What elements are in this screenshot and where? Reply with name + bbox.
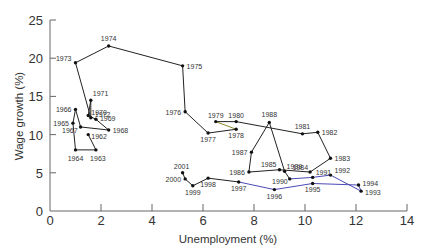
data-point — [79, 125, 82, 128]
year-label: 1987 — [232, 149, 248, 156]
year-label: 1998 — [200, 181, 216, 188]
data-point — [94, 148, 97, 151]
year-label: 2001 — [174, 163, 190, 170]
year-label: 1999 — [185, 189, 201, 196]
series-segment — [313, 183, 359, 185]
data-point — [250, 150, 253, 153]
year-label: 1979 — [208, 112, 224, 119]
data-point — [273, 188, 276, 191]
data-point — [237, 180, 240, 183]
year-label: 1973 — [56, 55, 72, 62]
data-point — [234, 120, 237, 123]
series-segment — [185, 112, 208, 133]
year-label: 1986 — [229, 169, 245, 176]
year-label: 1968 — [113, 127, 129, 134]
y-axis-title: Wage growth (%) — [13, 72, 25, 161]
year-label: 1985 — [261, 161, 277, 168]
data-point — [288, 177, 291, 180]
x-tick-label: 8 — [250, 213, 257, 228]
year-label: 1966 — [56, 106, 72, 113]
y-tick-label: 15 — [29, 89, 43, 104]
year-label: 1988 — [262, 111, 278, 118]
year-label: 1962 — [91, 133, 107, 140]
data-point — [94, 118, 97, 121]
data-point — [206, 131, 209, 134]
x-axis-ticks: 02468101214 — [46, 204, 414, 228]
year-label: 1989 — [287, 163, 303, 170]
series-segment — [81, 127, 109, 130]
data-point — [89, 116, 92, 119]
year-label: 1976 — [166, 109, 182, 116]
data-point — [268, 121, 271, 124]
data-point — [74, 108, 77, 111]
data-point — [74, 61, 77, 64]
x-tick-label: 14 — [400, 213, 414, 228]
data-point — [183, 110, 186, 113]
data-point — [234, 128, 237, 131]
data-point — [247, 170, 250, 173]
year-label: 1967 — [62, 127, 78, 134]
year-label: 1991 — [316, 169, 332, 176]
data-point — [71, 121, 74, 124]
x-tick-label: 4 — [148, 213, 155, 228]
year-label: 1990 — [272, 178, 288, 185]
series-segment — [331, 175, 362, 191]
year-label: 1971 — [93, 90, 109, 97]
x-tick-label: 12 — [349, 213, 363, 228]
x-tick-label: 10 — [298, 213, 312, 228]
data-point — [206, 176, 209, 179]
year-label: 2000 — [166, 176, 182, 183]
series-segment — [251, 122, 269, 152]
phillips-curve-chart: 0510152025 02468101214 19621963196419651… — [0, 0, 428, 252]
data-point — [308, 170, 311, 173]
y-tick-label: 5 — [36, 166, 43, 181]
data-point — [278, 168, 281, 171]
data-point — [87, 114, 90, 117]
data-point — [107, 128, 110, 131]
year-label: 1972 — [95, 111, 111, 118]
data-point — [311, 182, 314, 185]
year-label: 1975 — [187, 63, 203, 70]
y-tick-label: 10 — [29, 128, 43, 143]
data-point — [357, 183, 360, 186]
year-label: 1963 — [90, 155, 106, 162]
year-label: 1982 — [322, 129, 338, 136]
series-segment — [76, 46, 109, 63]
series-segment — [183, 66, 186, 112]
year-label: 1995 — [305, 186, 321, 193]
x-tick-label: 2 — [97, 213, 104, 228]
year-label: 1980 — [228, 112, 244, 119]
series-segment — [109, 46, 183, 66]
data-point — [181, 64, 184, 67]
year-label: 1993 — [365, 189, 381, 196]
data-point — [359, 189, 362, 192]
y-tick-label: 25 — [29, 13, 43, 28]
data-point — [89, 99, 92, 102]
series-segment — [73, 109, 76, 123]
data-point — [107, 44, 110, 47]
series-segment — [76, 63, 91, 118]
y-tick-label: 0 — [36, 204, 43, 219]
y-axis-ticks: 0510152025 — [29, 13, 56, 219]
data-point — [301, 132, 304, 135]
x-axis-title: Unemployment (%) — [179, 233, 278, 245]
series-segment — [216, 122, 236, 130]
data-point — [316, 131, 319, 134]
year-label: 1981 — [295, 123, 311, 130]
year-label: 1996 — [267, 193, 283, 200]
data-point — [183, 177, 186, 180]
year-label: 1974 — [101, 35, 117, 42]
data-point — [329, 157, 332, 160]
series-segment — [249, 152, 252, 172]
year-label: 1983 — [335, 155, 351, 162]
x-tick-label: 0 — [46, 213, 53, 228]
year-label: 1964 — [68, 155, 84, 162]
year-label: 1994 — [363, 180, 379, 187]
year-label: 1992 — [335, 167, 351, 174]
series-segment — [76, 109, 81, 127]
y-tick-label: 20 — [29, 51, 43, 66]
series-segment — [249, 170, 280, 172]
data-point — [311, 176, 314, 179]
data-point — [181, 171, 184, 174]
data-point — [74, 148, 77, 151]
